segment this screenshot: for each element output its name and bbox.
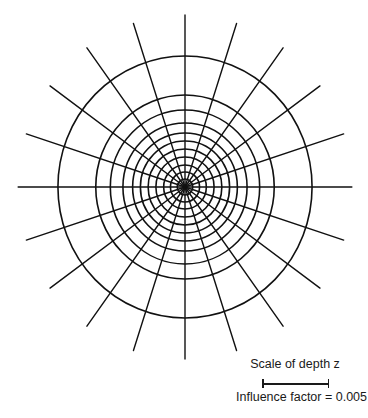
radial-line bbox=[185, 187, 237, 351]
depth-scale-bar bbox=[262, 379, 329, 388]
influence-factor-label: Influence factor = 0.005 bbox=[236, 390, 367, 404]
radial-lines bbox=[18, 15, 352, 359]
scale-title: Scale of depth z bbox=[240, 357, 350, 371]
scale-bar-left-tick bbox=[262, 379, 264, 388]
radial-line bbox=[185, 23, 237, 187]
radial-line bbox=[26, 187, 185, 240]
radial-line bbox=[133, 187, 185, 351]
radial-line bbox=[133, 23, 185, 187]
radial-line bbox=[185, 187, 344, 240]
scale-bar-right-tick bbox=[328, 379, 330, 388]
radial-line bbox=[185, 134, 344, 187]
influence-chart bbox=[0, 0, 368, 418]
scale-bar-line bbox=[262, 383, 329, 385]
radial-line bbox=[26, 134, 185, 187]
